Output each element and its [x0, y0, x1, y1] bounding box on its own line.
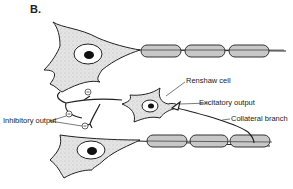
inhibitory-synapses — [66, 89, 91, 129]
bottom-neuron-nucleolus — [87, 147, 97, 155]
myelin-sheath — [229, 45, 269, 57]
neuron-diagram — [0, 0, 293, 189]
label-excitatory-output: Excitatory output — [199, 99, 255, 107]
renshaw-nucleolus — [148, 104, 154, 109]
myelin-sheath — [185, 45, 225, 57]
renshaw-cell — [122, 88, 178, 122]
myelin-sheath — [230, 135, 270, 147]
label-renshaw-cell: Renshaw cell — [186, 77, 231, 85]
bottom-motor-neuron — [50, 135, 272, 178]
top-motor-neuron — [44, 22, 286, 92]
myelin-sheath — [141, 45, 181, 57]
label-collateral-branch: Collateral branch — [231, 115, 288, 123]
myelin-sheath — [190, 135, 228, 147]
top-neuron-nucleolus — [84, 51, 94, 59]
label-inhibitory-output: Inhibitory output — [3, 117, 56, 125]
